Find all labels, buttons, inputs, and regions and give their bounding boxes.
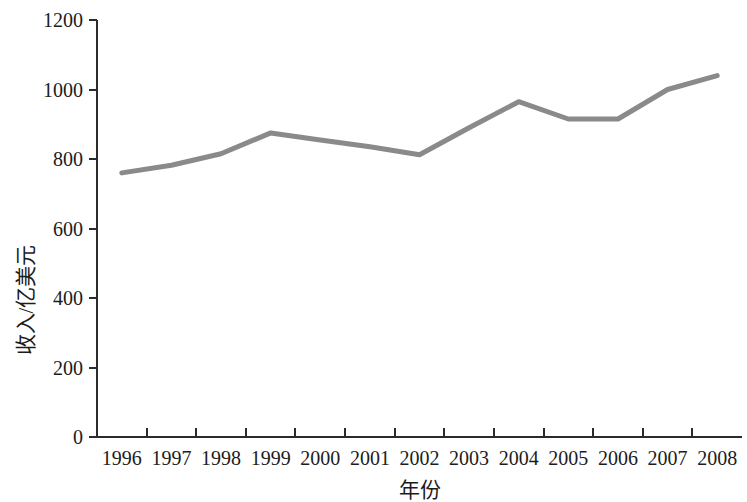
- x-tick-label: 2008: [697, 447, 737, 469]
- x-tick-label: 2002: [400, 447, 440, 469]
- x-tick-label: 2003: [449, 447, 489, 469]
- y-tick-label: 800: [53, 148, 83, 170]
- x-axis-title: 年份: [399, 478, 441, 502]
- x-tick-label: 1997: [151, 447, 191, 469]
- chart-background: [0, 0, 747, 502]
- x-tick-label: 2001: [350, 447, 390, 469]
- x-tick-label: 2000: [300, 447, 340, 469]
- x-tick-label: 2004: [499, 447, 539, 469]
- y-axis-title: 收入/亿美元: [14, 245, 38, 356]
- x-tick-label: 2006: [598, 447, 638, 469]
- x-tick-label: 1998: [201, 447, 241, 469]
- y-tick-label: 600: [53, 218, 83, 240]
- line-chart-figure: 020040060080010001200 199619971998199920…: [0, 0, 747, 502]
- x-tick-label: 1999: [251, 447, 291, 469]
- y-tick-label: 0: [73, 426, 83, 448]
- x-tick-label: 2005: [548, 447, 588, 469]
- x-tick-label: 2007: [648, 447, 688, 469]
- y-tick-label: 200: [53, 357, 83, 379]
- x-tick-label: 1996: [102, 447, 142, 469]
- y-tick-label: 400: [53, 287, 83, 309]
- y-tick-label: 1200: [43, 9, 83, 31]
- y-tick-label: 1000: [43, 79, 83, 101]
- chart-canvas: 020040060080010001200 199619971998199920…: [0, 0, 747, 502]
